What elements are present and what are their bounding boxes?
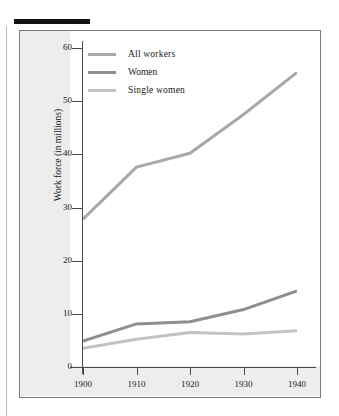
- legend-label-women: Women: [128, 64, 157, 80]
- y-tick-label-20: 20: [46, 256, 72, 265]
- y-tick-50: [72, 101, 82, 102]
- page-left-rule: [6, 26, 7, 416]
- x-tick-1930: [244, 367, 245, 375]
- y-axis-title: Work force (in millions): [53, 75, 63, 235]
- chart-legend: All workersWomenSingle women: [88, 46, 238, 100]
- y-tick-60: [72, 48, 82, 49]
- x-tick-1920: [190, 367, 191, 375]
- y-tick-label-wrap: 60: [38, 43, 72, 53]
- x-tick-1940: [297, 367, 298, 375]
- y-tick-0: [72, 367, 82, 368]
- y-tick-label-10: 10: [46, 309, 72, 318]
- y-tick-label-wrap: 0: [38, 362, 72, 372]
- x-axis-line: [70, 367, 316, 368]
- y-tick-30: [72, 208, 82, 209]
- x-tick-1900: [83, 367, 84, 375]
- legend-item-all-workers: All workers: [88, 46, 238, 64]
- y-tick-label-wrap: 20: [38, 256, 72, 266]
- x-tick-1910: [137, 367, 138, 375]
- y-tick-20: [72, 261, 82, 262]
- y-tick-label-0: 0: [46, 362, 72, 371]
- y-tick-10: [72, 314, 82, 315]
- legend-swatch-single-women: [88, 89, 116, 92]
- legend-item-women: Women: [88, 64, 238, 82]
- x-tick-label-1930: 1930: [221, 379, 267, 389]
- legend-label-single-women: Single women: [128, 82, 185, 98]
- x-tick-label-1920: 1920: [167, 379, 213, 389]
- x-tick-label-1940: 1940: [274, 379, 320, 389]
- series-line-single-women: [83, 331, 297, 349]
- x-tick-label-1900: 1900: [60, 379, 106, 389]
- y-tick-label-60: 60: [46, 43, 72, 52]
- top-black-bar: [14, 19, 90, 24]
- y-tick-40: [72, 154, 82, 155]
- legend-item-single-women: Single women: [88, 82, 238, 100]
- y-tick-label-wrap: 10: [38, 309, 72, 319]
- legend-label-all-workers: All workers: [128, 46, 175, 62]
- legend-swatch-women: [88, 71, 116, 74]
- legend-swatch-all-workers: [88, 53, 116, 56]
- x-tick-label-1910: 1910: [114, 379, 160, 389]
